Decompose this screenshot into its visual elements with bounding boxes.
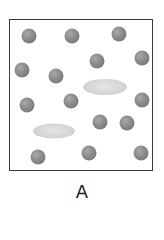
sphere-particle <box>49 69 64 84</box>
sphere-particle <box>134 146 149 161</box>
sphere-particle <box>135 93 150 108</box>
ellipse-molecule <box>33 124 75 139</box>
sphere-particle <box>120 116 135 131</box>
diagram-label: A <box>0 181 164 202</box>
sphere-particle <box>65 29 80 44</box>
sphere-particle <box>31 150 46 165</box>
sphere-particle <box>93 115 108 130</box>
sphere-particle <box>112 27 127 42</box>
sphere-particle <box>82 146 97 161</box>
ellipse-molecule <box>83 79 127 95</box>
sphere-particle <box>135 51 150 66</box>
sphere-particle <box>64 94 79 109</box>
sphere-particle <box>22 29 37 44</box>
sphere-particle <box>90 54 105 69</box>
sphere-particle <box>20 98 35 113</box>
sphere-particle <box>15 63 30 78</box>
